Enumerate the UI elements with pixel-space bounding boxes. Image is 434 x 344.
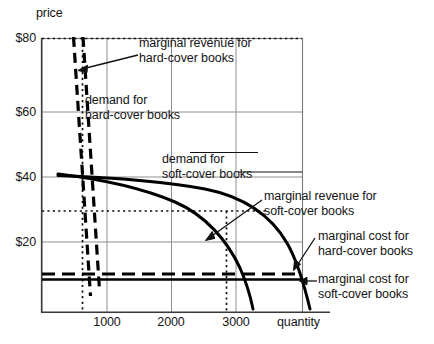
arrowhead-mr-hardcover [78,65,88,72]
y-tick-label-60: $60 [2,105,36,120]
annotation-mr-softcover-line2: soft-cover books [264,204,354,219]
leader-mr-hardcover [82,55,138,69]
price-quantity-chart: price $80 $60 $40 $20 1000 2000 3000 qua… [0,0,434,344]
annotation-demand-softcover-line1: demand for [162,152,224,167]
hardcover-curves [74,37,100,296]
x-tick-label-1000: 1000 [77,315,137,330]
y-tick-label-40: $40 [2,170,36,185]
annotation-mr-softcover-line1: marginal revenue for [264,189,377,204]
x-axis-title: quantity [277,315,320,330]
annotation-mc-hardcover-line1: marginal cost for [318,229,409,244]
annotation-mr-hardcover-line2: hard-cover books [139,51,234,66]
arrowhead-mr-softcover [206,232,215,241]
y-axis-title: price [36,6,63,21]
curve-demand-hardcover [83,37,100,290]
annotation-demand-hardcover-line1: demand for [85,93,147,108]
annotation-demand-softcover-line2: soft-cover books [162,167,252,182]
annotation-mc-softcover-line2: soft-cover books [318,287,408,302]
y-tick-label-20: $20 [2,235,36,250]
x-tick-label-2000: 2000 [141,315,201,330]
annotation-demand-hardcover-line2: hard-cover books [85,108,180,123]
annotation-mc-hardcover-line2: hard-cover books [318,244,413,259]
y-tick-label-80: $80 [2,31,36,46]
x-tick-label-3000: 3000 [206,315,266,330]
annotation-mc-softcover-line1: marginal cost for [318,272,409,287]
annotation-mr-hardcover-line1: marginal revenue for [139,36,252,51]
